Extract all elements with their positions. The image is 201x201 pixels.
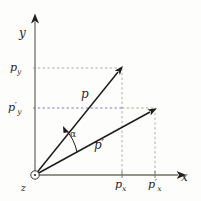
tick-label-px-sub: x [122, 184, 126, 193]
tick-label-px-base: p [115, 178, 122, 191]
vector-diagram-figure: y x py p′y px p′x p p′ α z [0, 0, 201, 201]
vector-p [35, 72, 118, 175]
vector-label-p-prime: p′ [94, 139, 104, 151]
tick-label-pyprime-base: p [8, 101, 15, 114]
tick-label-py-prime-group: p′y [8, 101, 21, 115]
vector-p-prime [35, 112, 150, 175]
angle-label-alpha: α [70, 130, 76, 139]
diagram-canvas [0, 0, 201, 201]
y-axis-label: y [19, 27, 26, 39]
tick-label-px-prime-group: p′x [148, 178, 161, 192]
tick-label-py: py [10, 61, 21, 75]
tick-label-py-sub: y [17, 67, 21, 76]
tick-label-pxprime-base: p [148, 178, 155, 191]
origin-dot-icon [34, 174, 36, 176]
tick-label-px: px [115, 178, 126, 192]
vector-label-p-base: p [81, 87, 89, 101]
origin-label-z: z [21, 184, 26, 193]
x-axis-label: x [181, 171, 188, 183]
vector-label-pprime-prime: ′ [101, 137, 103, 150]
tick-label-py-base: p [10, 61, 17, 74]
tick-label-pxprime-sub: x [157, 184, 161, 193]
vector-label-p: p [81, 88, 88, 100]
tick-label-pyprime-sub: y [17, 107, 21, 116]
angle-arc-tip [63, 126, 69, 133]
